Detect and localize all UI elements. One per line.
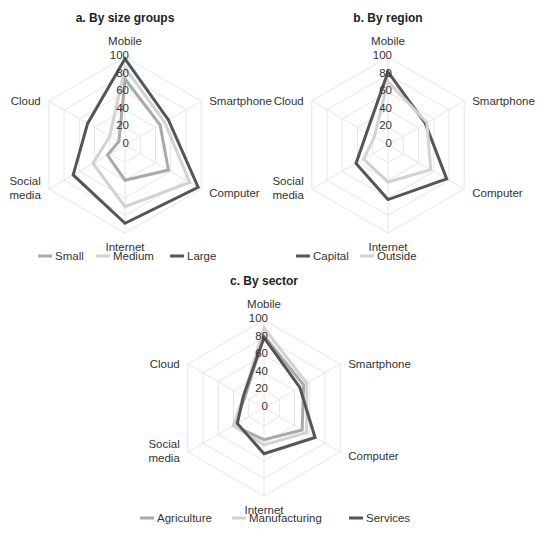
- radar-chart-1: 020406080100MobileSmartphoneComputerInte…: [272, 11, 534, 262]
- legend-label: Small: [55, 250, 84, 262]
- axis-label-social-media: Social: [272, 175, 303, 187]
- tick-label: 60: [379, 84, 392, 96]
- tick-label: 100: [249, 312, 268, 324]
- tick-label: 40: [255, 365, 268, 377]
- axis-spoke: [312, 145, 388, 189]
- tick-label: 80: [379, 67, 392, 79]
- legend-label: Capital: [313, 250, 349, 262]
- axis-label-cloud: Cloud: [274, 95, 304, 107]
- axis-label-smartphone: Smartphone: [348, 358, 411, 370]
- series-outside: [364, 82, 431, 182]
- axis-label-mobile: Mobile: [371, 35, 405, 47]
- tick-label: 100: [110, 49, 129, 61]
- legend-label: Services: [366, 512, 410, 524]
- legend-label: Manufacturing: [249, 512, 322, 524]
- axis-label-social-media: media: [148, 452, 180, 464]
- radar-chart-2: 020406080100MobileSmartphoneComputerInte…: [140, 274, 411, 524]
- axis-spoke: [49, 145, 125, 189]
- legend-label: Large: [187, 250, 216, 262]
- tick-label: 0: [123, 137, 129, 149]
- radar-chart-0: 020406080100MobileSmartphoneComputerInte…: [9, 11, 271, 262]
- tick-label: 80: [255, 330, 268, 342]
- axis-label-smartphone: Smartphone: [209, 95, 272, 107]
- tick-label: 60: [116, 84, 129, 96]
- axis-label-computer: Computer: [348, 450, 399, 462]
- axis-label-social-media: media: [272, 189, 304, 201]
- tick-label: 0: [386, 137, 392, 149]
- series-capital: [356, 72, 447, 200]
- legend-label: Outside: [377, 250, 417, 262]
- axis-label-mobile: Mobile: [247, 298, 281, 310]
- axis-label-social-media: Social: [148, 438, 179, 450]
- radar-charts-canvas: 020406080100MobileSmartphoneComputerInte…: [0, 0, 550, 542]
- axis-label-mobile: Mobile: [108, 35, 142, 47]
- chart-title: a. By size groups: [76, 11, 175, 25]
- axis-label-cloud: Cloud: [150, 358, 180, 370]
- axis-label-social-media: Social: [9, 175, 40, 187]
- tick-label: 80: [116, 67, 129, 79]
- axis-label-computer: Computer: [472, 187, 523, 199]
- series-agriculture: [234, 336, 304, 440]
- axis-spoke: [188, 408, 264, 452]
- tick-label: 60: [255, 347, 268, 359]
- axis-label-social-media: media: [9, 189, 41, 201]
- tick-label: 0: [262, 400, 268, 412]
- axis-label-cloud: Cloud: [11, 95, 41, 107]
- axis-label-smartphone: Smartphone: [472, 95, 535, 107]
- chart-title: c. By sector: [230, 274, 298, 288]
- chart-title: b. By region: [353, 11, 422, 25]
- legend-label: Agriculture: [157, 512, 212, 524]
- axis-label-computer: Computer: [209, 187, 260, 199]
- tick-label: 20: [116, 119, 129, 131]
- tick-label: 100: [373, 49, 392, 61]
- legend-label: Medium: [113, 250, 154, 262]
- axis-spoke: [388, 145, 464, 189]
- tick-label: 20: [379, 119, 392, 131]
- tick-label: 40: [116, 102, 129, 114]
- tick-label: 20: [255, 382, 268, 394]
- tick-label: 40: [379, 102, 392, 114]
